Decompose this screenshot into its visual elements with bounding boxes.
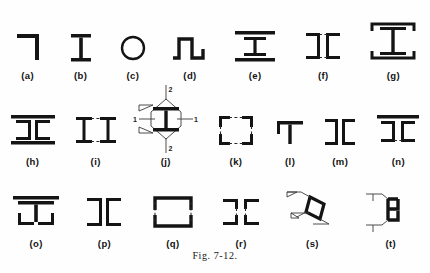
section-label-i: (i) bbox=[91, 157, 101, 167]
i-beam-with-section-marks-icon: 2 2 1 1 bbox=[133, 84, 199, 154]
box-section-with-weld-symbols-icon bbox=[362, 186, 420, 236]
section-mark-1-left: 1 bbox=[133, 116, 137, 123]
section-label-m: (m) bbox=[332, 157, 348, 167]
i-beam-icon bbox=[66, 26, 96, 68]
figure-7-12: (a) (b) (c) bbox=[0, 0, 430, 273]
tee-section-icon bbox=[273, 110, 307, 154]
section-label-s: (s) bbox=[306, 239, 319, 249]
section-diagram-n: (n) bbox=[373, 108, 423, 167]
section-label-l: (l) bbox=[285, 157, 295, 167]
figure-row-1: (a) (b) (c) bbox=[0, 6, 430, 80]
i-beam-with-channel-caps-icon bbox=[367, 18, 419, 68]
section-label-t: (t) bbox=[385, 239, 396, 249]
section-label-g: (g) bbox=[387, 71, 400, 81]
section-mark-2-top: 2 bbox=[168, 86, 172, 93]
i-beam-with-cover-plates-icon bbox=[231, 24, 279, 68]
two-channels-box-laced-icon bbox=[147, 190, 199, 236]
section-diagram-d: (d) bbox=[170, 26, 210, 81]
four-angles-i-section-icon bbox=[82, 190, 126, 236]
section-label-b: (b) bbox=[74, 71, 87, 81]
section-label-k: (k) bbox=[230, 157, 243, 167]
section-diagram-i: (i) bbox=[72, 108, 120, 167]
section-diagram-l: (l) bbox=[273, 110, 307, 167]
section-mark-1-right: 1 bbox=[194, 116, 198, 123]
section-diagram-k: (k) bbox=[212, 108, 260, 167]
section-diagram-j: 2 2 1 1 (j) bbox=[133, 84, 199, 167]
section-diagram-h: (h) bbox=[7, 108, 59, 167]
section-label-h: (h) bbox=[26, 157, 39, 167]
section-label-r: (r) bbox=[236, 239, 247, 249]
two-channels-back-to-back-laced-icon bbox=[300, 24, 346, 68]
section-label-n: (n) bbox=[392, 157, 405, 167]
two-channels-with-cover-plates-icon bbox=[7, 108, 59, 154]
two-i-beams-laced-icon bbox=[72, 108, 120, 154]
section-label-p: (p) bbox=[98, 239, 111, 249]
section-diagram-r: (r) bbox=[219, 190, 263, 249]
section-diagram-c: (c) bbox=[117, 26, 149, 81]
figure-row-3: (o) (p) bbox=[0, 170, 430, 248]
figure-caption: Fig. 7-12. bbox=[0, 250, 430, 261]
section-label-q: (q) bbox=[166, 239, 179, 249]
section-diagram-b: (b) bbox=[66, 26, 96, 81]
section-label-j: (j) bbox=[161, 157, 171, 167]
section-mark-2-bottom: 2 bbox=[168, 145, 172, 152]
hat-section-icon bbox=[170, 26, 210, 68]
section-diagram-f: (f) bbox=[300, 24, 346, 81]
section-diagram-o: (o) bbox=[10, 190, 62, 249]
figure-row-2: (h) (i) bbox=[0, 86, 430, 166]
section-label-o: (o) bbox=[29, 239, 42, 249]
angle-section-icon bbox=[11, 26, 45, 68]
two-channels-with-top-plate-laced-icon bbox=[373, 108, 423, 154]
section-label-d: (d) bbox=[183, 71, 196, 81]
box-section-diagonal-with-weld-symbols-icon bbox=[283, 186, 341, 236]
section-label-e: (e) bbox=[249, 71, 262, 81]
circular-tube-icon bbox=[117, 26, 149, 68]
section-diagram-s: (s) bbox=[283, 186, 341, 249]
section-diagram-m: (m) bbox=[320, 110, 360, 167]
section-label-a: (a) bbox=[21, 71, 34, 81]
four-angles-laced-i-section-icon bbox=[219, 190, 263, 236]
section-diagram-t: (t) bbox=[362, 186, 420, 249]
section-diagram-q: (q) bbox=[147, 190, 199, 249]
section-diagram-e: (e) bbox=[231, 24, 279, 81]
section-diagram-a: (a) bbox=[11, 26, 45, 81]
section-diagram-p: (p) bbox=[82, 190, 126, 249]
section-label-c: (c) bbox=[126, 71, 139, 81]
i-beam-cover-plate-and-angles-icon bbox=[10, 190, 62, 236]
section-diagram-g: (g) bbox=[367, 18, 419, 81]
four-angles-box-laced-icon bbox=[212, 108, 260, 154]
section-label-f: (f) bbox=[318, 71, 329, 81]
two-channels-toe-to-toe-icon bbox=[320, 110, 360, 154]
